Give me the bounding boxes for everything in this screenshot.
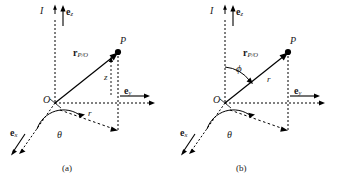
x-axis-dashed-a — [22, 103, 55, 150]
radial-label-b: r — [267, 75, 271, 84]
frame-label-b: I — [210, 6, 213, 16]
panel-b-graphics — [170, 0, 339, 170]
unit-vector-ey-head-a — [144, 94, 150, 99]
position-vector-label-a: rP/O — [73, 48, 88, 59]
point-p-marker-b — [285, 49, 291, 55]
unit-vector-ey-head-b — [314, 94, 320, 99]
horizontal-axis-head-a — [149, 101, 155, 106]
unit-vector-ey-label-a: ey — [124, 86, 131, 97]
radial-projection-head-b — [280, 127, 288, 132]
unit-vector-ez-label-b: ez — [236, 7, 243, 18]
angle-theta-label-a: θ — [57, 130, 62, 140]
point-p-label-b: P — [290, 36, 296, 46]
unit-vector-ex-label-a: ex — [10, 128, 17, 139]
horizontal-axis-head-b — [319, 101, 325, 106]
radial-label-a: r — [88, 109, 92, 118]
position-vector-label-b: rP/O — [243, 48, 258, 59]
angle-theta-arrow-b — [248, 113, 255, 119]
angle-theta-arrow-a — [78, 113, 85, 119]
frame-arrow-head-a — [53, 5, 57, 10]
frame-label-a: I — [40, 6, 43, 16]
unit-vector-ey-label-b: ey — [294, 86, 301, 97]
position-vector-rpo-shaft-b — [225, 56, 284, 103]
origin-label-b: O — [213, 95, 220, 105]
radial-projection-head-a — [110, 127, 118, 132]
unit-vector-ez-label-a: ez — [66, 7, 73, 18]
angle-theta-label-b: θ — [227, 130, 232, 140]
x-axis-dashed-b — [192, 103, 225, 150]
unit-vector-ex-head-a — [11, 149, 17, 155]
x-axis-head-a — [19, 149, 26, 154]
radial-projection-dashed-a — [60, 110, 114, 129]
unit-vector-ez-head-a — [60, 5, 65, 12]
height-z-label-a: z — [104, 73, 108, 82]
frame-arrow-head-b — [223, 5, 227, 10]
point-p-label-a: P — [120, 36, 126, 46]
angle-phi-label-b: ϕ — [236, 63, 242, 74]
figure-canvas: I ez O P rP/O ey ex θ r z (a) — [0, 0, 339, 184]
origin-label-a: O — [43, 95, 50, 105]
panel-a-caption: (a) — [62, 163, 72, 173]
radial-projection-dashed-b — [230, 110, 284, 129]
point-p-marker-a — [115, 49, 121, 55]
unit-vector-ex-label-b: ex — [180, 128, 187, 139]
unit-vector-ez-head-b — [230, 5, 235, 12]
unit-vector-ex-head-b — [181, 149, 187, 155]
panel-b-caption: (b) — [236, 163, 247, 173]
x-axis-head-b — [189, 149, 196, 154]
panel-a-graphics — [0, 0, 170, 170]
